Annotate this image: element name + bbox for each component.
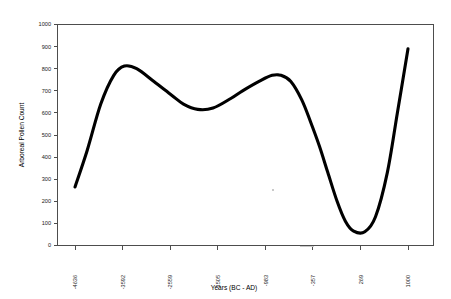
chart-figure: 0 100 200 300 400 500 600 700 800 900 10… xyxy=(0,0,451,299)
x-tick-label--4636: -4636 xyxy=(72,275,78,289)
y-tick-label-1000: 1000 xyxy=(39,21,51,27)
y-tick-label-300: 300 xyxy=(42,176,51,182)
y-axis-ticks xyxy=(54,25,58,246)
y-tick-label-100: 100 xyxy=(42,220,51,226)
x-tick-label--983: -983 xyxy=(263,275,269,286)
y-tick-label-700: 700 xyxy=(42,88,51,94)
x-tick-label-1000: 1000 xyxy=(405,275,411,287)
x-axis-ticks xyxy=(75,246,408,250)
y-tick-label-600: 600 xyxy=(42,110,51,116)
y-axis-tick-labels: 0 100 200 300 400 500 600 700 800 900 10… xyxy=(39,21,51,248)
x-tick-label--3592: -3592 xyxy=(120,275,126,289)
y-tick-label-0: 0 xyxy=(48,242,51,248)
y-axis-title: Arboreal Pollen Count xyxy=(18,103,25,168)
x-tick-label--2559: -2559 xyxy=(167,275,173,289)
y-tick-label-200: 200 xyxy=(42,198,51,204)
x-tick-label-269: 269 xyxy=(358,275,364,284)
pollen-count-line-chart: 0 100 200 300 400 500 600 700 800 900 10… xyxy=(0,0,451,299)
x-axis-title: Years (BC - AD) xyxy=(211,284,258,292)
y-tick-label-800: 800 xyxy=(42,66,51,72)
y-tick-label-400: 400 xyxy=(42,154,51,160)
x-tick-label--357: -357 xyxy=(310,275,316,286)
y-tick-label-500: 500 xyxy=(42,132,51,138)
pollen-count-series-line xyxy=(75,49,408,233)
scan-artifacts xyxy=(272,73,314,247)
y-tick-label-900: 900 xyxy=(42,44,51,50)
